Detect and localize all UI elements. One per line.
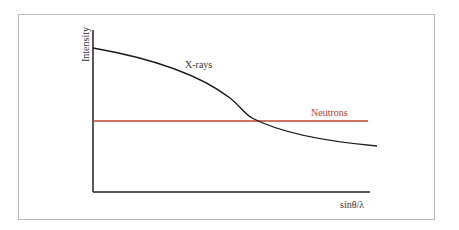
xrays-label: X-rays: [185, 59, 212, 70]
y-axis-label: Intensity: [80, 27, 91, 62]
x-axis-label: sinθ/λ: [340, 199, 364, 210]
xrays-series: [93, 48, 377, 146]
chart-plot: Intensity sinθ/λ X-rays Neutrons: [0, 0, 459, 230]
neutrons-label: Neutrons: [311, 107, 348, 118]
